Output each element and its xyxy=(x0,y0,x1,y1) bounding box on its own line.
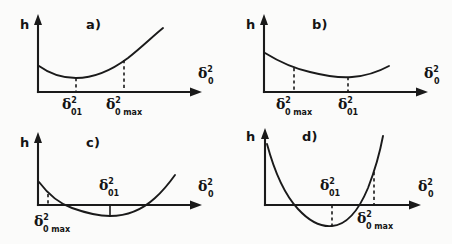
panel-d-marker-delta01: δ201 xyxy=(320,178,346,196)
panel-d: h d) δ20 δ201 δ20 max xyxy=(226,122,452,244)
panel-b-marker-delta0max-sup: 2 xyxy=(285,96,291,105)
panel-c-x-axis-label-sub: 0 xyxy=(208,190,214,199)
panel-b-marker-delta01-base: δ xyxy=(338,96,347,112)
panel-d-letter: d) xyxy=(302,130,318,143)
panel-a-x-axis-label-sub: 0 xyxy=(208,77,214,86)
panel-a-y-axis-arrowhead xyxy=(34,14,42,25)
panel-c: h c) δ20 δ20 max δ201 xyxy=(0,122,226,244)
panel-c-marker-delta01-sub: 01 xyxy=(108,189,119,198)
panel-a-marker-delta01-sup: 2 xyxy=(71,96,77,105)
panel-b-marker-delta01: δ201 xyxy=(338,97,364,115)
panel-b-x-axis-label-sub: 0 xyxy=(434,77,440,86)
panel-a-marker-delta01: δ201 xyxy=(62,97,88,115)
panel-a-y-axis-label: h xyxy=(20,18,29,31)
panel-c-marker-delta0max: δ20 max xyxy=(34,214,76,232)
panel-d-marker-delta0max: δ20 max xyxy=(357,211,399,229)
panel-a-letter: a) xyxy=(86,18,101,31)
panel-d-y-axis-arrowhead xyxy=(261,128,269,139)
panel-c-marker-delta01: δ201 xyxy=(99,178,125,196)
panel-c-x-axis-label-sup: 2 xyxy=(207,178,213,187)
panel-b-x-axis-label-sup: 2 xyxy=(433,65,439,74)
panel-d-x-axis-label: δ20 xyxy=(418,179,439,197)
panel-d-marker-delta01-sup: 2 xyxy=(329,177,335,186)
figure-canvas: h a) δ20 δ201 δ20 max h b) δ20 δ xyxy=(0,0,452,244)
panel-a-marker-delta0max: δ20 max xyxy=(106,97,148,115)
panel-d-x-axis-label-sup: 2 xyxy=(427,178,433,187)
panel-a-marker-delta01-sub: 01 xyxy=(71,108,82,117)
panel-d-marker-delta0max-sup: 2 xyxy=(366,210,372,219)
panel-b-curve xyxy=(265,53,389,77)
panel-c-x-axis-label: δ20 xyxy=(198,179,219,197)
panel-c-marker-delta0max-base: δ xyxy=(34,213,43,229)
panel-b-marker-delta0max-sub: 0 max xyxy=(285,108,312,117)
panel-a-marker-delta01-base: δ xyxy=(62,96,71,112)
panel-a-marker-delta0max-sub: 0 max xyxy=(115,108,142,117)
panel-b-letter: b) xyxy=(312,18,328,31)
panel-b-x-axis-label: δ20 xyxy=(424,66,445,84)
panel-d-marker-delta0max-sub: 0 max xyxy=(366,222,393,231)
panel-d-marker-delta01-base: δ xyxy=(320,177,329,193)
panel-c-marker-delta0max-sub: 0 max xyxy=(43,225,70,234)
panel-d-marker-delta01-sub: 01 xyxy=(329,189,340,198)
panel-b: h b) δ20 δ20 max δ201 xyxy=(226,0,452,122)
panel-a-x-axis-arrowhead xyxy=(190,88,202,97)
panel-b-marker-delta0max: δ20 max xyxy=(276,97,318,115)
panel-a-x-axis-label-base: δ xyxy=(198,65,207,81)
panel-d-x-axis-label-base: δ xyxy=(418,178,427,194)
panel-a-marker-delta0max-base: δ xyxy=(106,96,115,112)
panel-d-y-axis-label: h xyxy=(246,130,255,143)
panel-d-marker-delta0max-base: δ xyxy=(357,210,366,226)
panel-b-x-axis-label-base: δ xyxy=(424,65,433,81)
panel-c-marker-delta0max-sup: 2 xyxy=(43,213,49,222)
panel-b-marker-delta01-sub: 01 xyxy=(347,108,358,117)
panel-a: h a) δ20 δ201 δ20 max xyxy=(0,0,226,122)
panel-b-y-axis-arrowhead xyxy=(260,14,268,25)
panel-a-marker-delta0max-sup: 2 xyxy=(115,96,121,105)
panel-c-x-axis-arrowhead xyxy=(190,201,202,210)
panel-c-y-axis-label: h xyxy=(20,136,29,149)
panel-a-curve xyxy=(39,28,163,78)
panel-b-marker-delta0max-base: δ xyxy=(276,96,285,112)
panel-d-x-axis-label-sub: 0 xyxy=(428,190,434,199)
panel-b-marker-delta01-sup: 2 xyxy=(347,96,353,105)
panel-a-x-axis-label: δ20 xyxy=(198,66,219,84)
panel-c-marker-delta01-base: δ xyxy=(99,177,108,193)
panel-b-x-axis-arrowhead xyxy=(416,88,428,97)
panel-d-x-axis-arrowhead xyxy=(409,201,421,210)
panel-c-x-axis-label-base: δ xyxy=(198,178,207,194)
panel-b-y-axis-label: h xyxy=(246,18,255,31)
panel-a-x-axis-label-sup: 2 xyxy=(207,65,213,74)
panel-c-marker-delta01-sup: 2 xyxy=(108,177,114,186)
panel-c-letter: c) xyxy=(86,136,100,149)
panel-c-y-axis-arrowhead xyxy=(34,132,42,143)
